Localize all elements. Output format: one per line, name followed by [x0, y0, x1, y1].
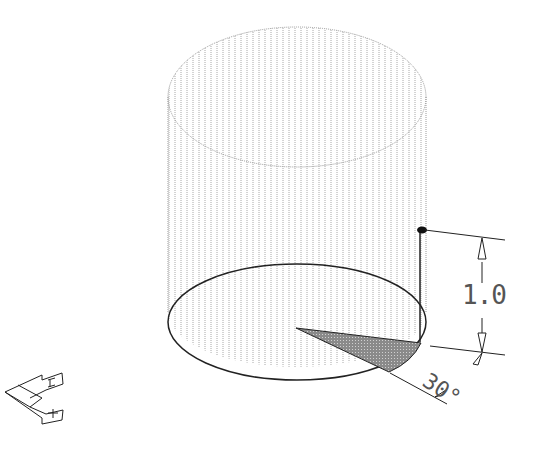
cylinder-body [166, 25, 428, 375]
height-dimension-label: 1.0 [462, 280, 506, 310]
ucs-axis-icon [5, 373, 63, 424]
